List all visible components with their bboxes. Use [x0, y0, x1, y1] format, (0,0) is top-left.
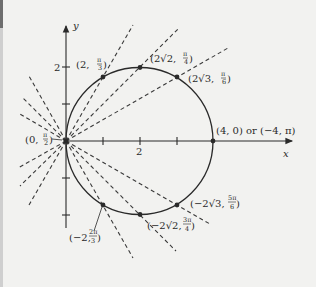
svg-text:4: 4 [185, 225, 189, 233]
label-4-0: (4, 0) or (−4, π) [216, 125, 296, 136]
svg-text:(0,: (0, [25, 134, 38, 145]
svg-text:4: 4 [184, 58, 188, 66]
label-neg2-2pi3: (−2, 2π 3 ) [69, 228, 101, 245]
label-2r2-pi4: (2√2, π 4 ) [150, 50, 193, 66]
svg-text:π: π [97, 56, 102, 64]
svg-text:6: 6 [222, 78, 226, 86]
svg-text:): ) [236, 198, 240, 209]
svg-text:(2,: (2, [76, 59, 89, 70]
label-2r3-pi6: (2√3, π 6 ) [188, 70, 231, 86]
ray-pi-over-6 [66, 48, 228, 141]
svg-text:): ) [49, 134, 53, 145]
svg-text:): ) [189, 53, 193, 64]
point-2r3-pi6 [175, 75, 180, 80]
svg-text:(−2√3,: (−2√3, [190, 198, 225, 209]
ray-ext-left-upper-1 [29, 76, 66, 141]
svg-text:(2√3,: (2√3, [188, 73, 214, 84]
polar-diagram: y x 2 2 (2, π 3 ) (2√2, π 4 ) (2√3, π 6 … [0, 0, 316, 287]
ray-ext-left-lower-3 [29, 141, 66, 205]
svg-text:): ) [191, 220, 195, 231]
point-neg2r2-3pi4 [138, 212, 143, 217]
svg-text:2: 2 [44, 139, 48, 147]
point-origin [63, 138, 68, 143]
leader-line-origin [52, 139, 62, 140]
point-neg2r3-5pi6 [175, 203, 180, 208]
svg-text:π: π [43, 131, 48, 139]
svg-text:π: π [221, 70, 226, 78]
point-2-pi3 [101, 75, 106, 80]
svg-text:π: π [183, 50, 188, 58]
svg-text:(2√2,: (2√2, [150, 53, 176, 64]
svg-text:): ) [103, 59, 107, 70]
svg-text:): ) [227, 73, 231, 84]
label-neg2r3-5pi6: (−2√3, 5π 6 ) [190, 194, 240, 211]
point-4-0 [211, 139, 216, 144]
label-neg2r2-3pi4: (−2√2, 3π 4 ) [147, 216, 195, 233]
svg-text:3: 3 [91, 237, 95, 245]
svg-text:(−2,: (−2, [69, 232, 91, 243]
ray-pi-over-4 [66, 29, 178, 141]
y-axis-label: y [72, 20, 79, 31]
point-2r2-pi4 [138, 65, 143, 70]
point-neg2-2pi3 [101, 203, 106, 208]
ray-pi-over-3 [66, 25, 133, 141]
svg-text:): ) [97, 232, 101, 243]
label-0-pi2: (0, π 2 ) [25, 131, 53, 147]
x-tick-label: 2 [136, 146, 142, 157]
y-tick-label: 2 [54, 62, 60, 73]
label-2-pi3: (2, π 3 ) [76, 56, 107, 72]
svg-text:6: 6 [230, 203, 234, 211]
x-axis-label: x [283, 148, 289, 159]
svg-text:(−2√2,: (−2√2, [147, 220, 182, 231]
svg-text:3: 3 [98, 64, 102, 72]
